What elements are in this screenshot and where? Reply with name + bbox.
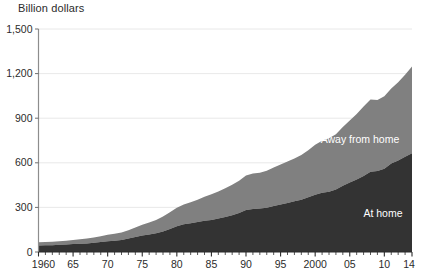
y-tick-label: 600 [15,156,33,168]
series-label-at-home: At home [363,207,402,219]
x-tick-label: 1960 [32,258,56,270]
x-axis-ticks [39,252,413,257]
y-axis-labels: 03006009001,2001,500 [6,23,32,258]
x-tick-label: 14 [403,258,415,270]
y-tick-label: 900 [15,112,33,124]
x-tick-label: 95 [275,258,287,270]
y-tick-label: 1,200 [6,67,32,79]
y-tick-label: 0 [27,246,33,258]
x-axis-labels: 1960657075808590952000051014 [32,258,415,270]
x-tick-label: 85 [206,258,218,270]
x-tick-label: 65 [67,258,79,270]
x-tick-label: 70 [102,258,114,270]
x-tick-label: 10 [378,258,390,270]
x-tick-label: 05 [344,258,356,270]
x-tick-label: 75 [136,258,148,270]
food-expenditure-area-chart: Billion dollars 03006009001,2001,500 196… [0,0,423,277]
y-tick-label: 1,500 [6,23,32,35]
area-series-group [39,66,413,252]
series-label-away-from-home: Away from home [321,133,400,145]
chart-canvas: 03006009001,2001,500 1960657075808590952… [0,0,423,277]
x-tick-label: 90 [240,258,252,270]
x-tick-label: 2000 [303,258,327,270]
y-tick-label: 300 [15,201,33,213]
x-tick-label: 80 [171,258,183,270]
